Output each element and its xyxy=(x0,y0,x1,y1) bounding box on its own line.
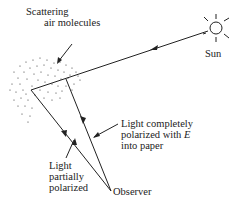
sun-label: Sun xyxy=(205,48,221,59)
partial-label-line1: Light xyxy=(49,160,72,171)
polarization-diagram xyxy=(0,0,240,216)
partial-leader-line xyxy=(66,140,74,158)
scattering-label-line1: Scattering xyxy=(26,6,69,17)
sun-icon xyxy=(203,14,229,42)
partial-label-line3: polarized xyxy=(49,182,88,193)
complete-leader-arrow-icon xyxy=(93,132,100,138)
complete-label-line3: into paper xyxy=(121,140,163,151)
complete-arrow-icon xyxy=(80,116,86,124)
scattering-label-line2: air molecules xyxy=(44,17,100,28)
sunray-arrow-icon xyxy=(150,45,158,50)
electric-field-symbol: E xyxy=(184,129,190,140)
partial-leader-arrow-icon xyxy=(72,138,77,145)
complete-label-line1: Light completely xyxy=(121,118,193,129)
partial-arrow-icon xyxy=(61,130,67,137)
observer-label: Observer xyxy=(113,186,151,197)
complete-label-line2: polarized with E xyxy=(121,129,190,140)
partial-label-line2: partially xyxy=(49,171,84,182)
complete-label-prefix: polarized with xyxy=(121,129,184,140)
